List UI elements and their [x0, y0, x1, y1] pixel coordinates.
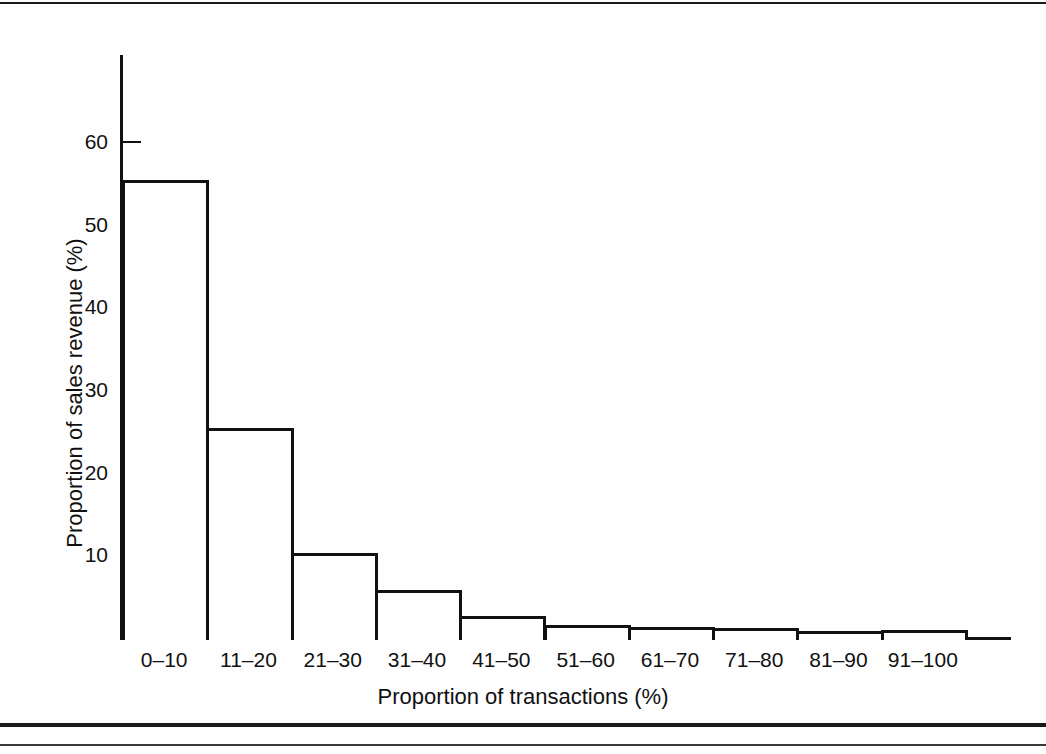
- histogram-chart: 102030405060 0–1011–2021–3031–4041–5051–…: [0, 0, 1046, 724]
- bar: [796, 631, 883, 640]
- x-axis-tick-label: 11–20: [206, 648, 290, 672]
- y-axis-tick: [123, 141, 141, 143]
- x-axis-tick-label: 81–90: [796, 648, 880, 672]
- x-axis-tick-label: 51–60: [544, 648, 628, 672]
- figure-page: 102030405060 0–1011–2021–3031–4041–5051–…: [0, 0, 1046, 754]
- x-axis-tick-label: 0–10: [122, 648, 206, 672]
- bar: [206, 428, 293, 640]
- bar: [628, 627, 715, 640]
- bar: [712, 628, 799, 640]
- bar: [544, 625, 631, 640]
- bar: [291, 553, 378, 640]
- x-axis-tick-label: 31–40: [375, 648, 459, 672]
- page-rule-bottom-thick: [0, 723, 1046, 727]
- x-axis-tick-label: 91–100: [881, 648, 965, 672]
- bar: [459, 616, 546, 640]
- y-axis-title: Proportion of sales revenue (%): [62, 143, 88, 643]
- x-axis-tick-label: 41–50: [459, 648, 543, 672]
- bar: [881, 630, 968, 640]
- page-rule-bottom-thin: [0, 744, 1046, 746]
- x-axis-title: Proportion of transactions (%): [0, 684, 1046, 710]
- bar: [122, 180, 209, 640]
- x-axis-tick-label: 61–70: [628, 648, 712, 672]
- x-axis-tick-label: 21–30: [291, 648, 375, 672]
- bar: [375, 590, 462, 640]
- x-axis-tick-label: 71–80: [712, 648, 796, 672]
